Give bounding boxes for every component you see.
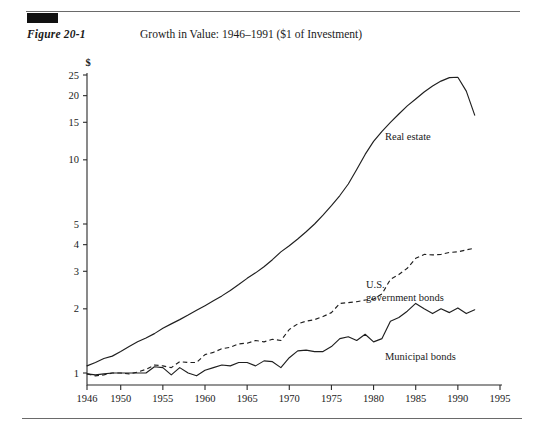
- annotation-line: U.S.: [366, 279, 385, 290]
- annotation-line: Municipal bonds: [385, 351, 456, 362]
- x-tick-label: 1950: [110, 393, 131, 404]
- y-tick-label: 1: [74, 368, 79, 379]
- x-tick-label: 1955: [152, 393, 173, 404]
- x-tick-label: 1980: [363, 393, 384, 404]
- annotation-line: government bonds: [366, 292, 444, 303]
- y-tick-label: 10: [69, 154, 80, 165]
- series-annotation-0: Real estate: [385, 131, 431, 142]
- series-line-0: [87, 77, 475, 366]
- y-tick-label: 2: [74, 303, 79, 314]
- series-annotation-2: Municipal bonds: [385, 351, 456, 362]
- y-tick-label: 20: [69, 90, 80, 101]
- chart-canvas: 1234510152025$19461950195519601965197019…: [0, 0, 545, 433]
- x-tick-label: 1975: [321, 393, 342, 404]
- y-axis-unit-label: $: [85, 57, 90, 68]
- figure-page: Figure 20-1 Growth in Value: 1946–1991 (…: [0, 0, 545, 433]
- chart-axes: [87, 73, 502, 385]
- y-tick-label: 15: [69, 117, 80, 128]
- bottom-rule: [22, 418, 522, 419]
- y-tick-label: 5: [74, 219, 79, 230]
- x-tick-label: 1965: [237, 393, 258, 404]
- x-tick-label: 1970: [279, 393, 300, 404]
- line-chart: 1234510152025$19461950195519601965197019…: [0, 0, 545, 433]
- y-tick-label: 3: [74, 266, 79, 277]
- series-annotation-1: U.S.government bonds: [366, 279, 444, 303]
- x-tick-label: 1960: [195, 393, 216, 404]
- y-tick-label: 4: [74, 239, 80, 250]
- x-tick-label: 1985: [405, 393, 426, 404]
- x-tick-label: 1995: [490, 393, 511, 404]
- y-tick-label: 25: [69, 70, 80, 81]
- x-tick-label: 1990: [447, 393, 468, 404]
- series-line-2: [87, 303, 475, 375]
- x-tick-label: 1946: [77, 393, 98, 404]
- annotation-line: Real estate: [385, 131, 431, 142]
